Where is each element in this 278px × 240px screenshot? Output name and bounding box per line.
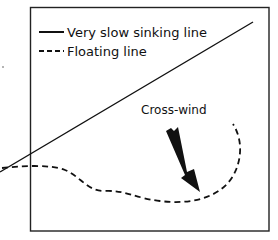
legend: Very slow sinking line Floating line: [39, 25, 207, 59]
diagram-frame: [31, 8, 270, 232]
stray-dot: [2, 66, 4, 68]
legend-label-sinking: Very slow sinking line: [67, 25, 207, 40]
cross-wind-label: Cross-wind: [141, 103, 207, 117]
wind-arrow-icon: [166, 127, 200, 192]
fly-line-diagram: Very slow sinking line Floating line Cro…: [0, 0, 278, 240]
legend-label-floating: Floating line: [67, 44, 147, 59]
floating-line: [2, 124, 240, 202]
